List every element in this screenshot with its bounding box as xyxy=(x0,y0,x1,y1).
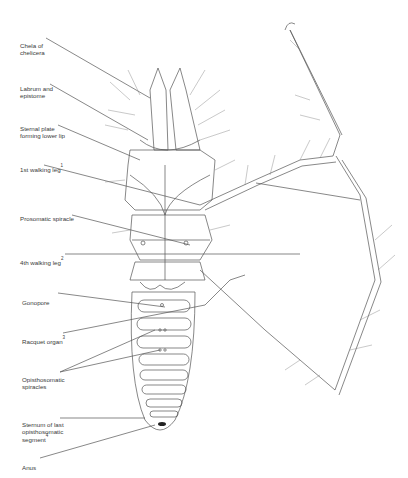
label-racquet-organ: Racquet organ3 xyxy=(22,330,65,345)
leader-chela xyxy=(46,38,150,98)
leader-sternal xyxy=(58,125,140,160)
label-labrum-and-epistome: Labrum and epistome xyxy=(20,77,53,100)
label-sternum-last-segment: Sternum of last opisthosomatic segment4 xyxy=(22,413,64,443)
arachnid-illustration xyxy=(0,0,408,478)
label-opisthosomatic-spiracles: Opisthosomatic spiracles xyxy=(22,368,65,391)
label-anus: Anus xyxy=(22,456,36,471)
label-gonopore: Gonopore xyxy=(22,291,50,306)
label-prosomatic-spiracle: Prosomatic spiracle xyxy=(20,207,74,222)
label-4th-walking-leg: 4th walking leg2 xyxy=(20,251,63,266)
label-1st-walking-leg: 1st walking leg1 xyxy=(20,158,63,173)
label-sternal-plate: Sternal plate forming lower lip xyxy=(20,117,65,140)
label-chela-of-chelicera: Chela of chelicera xyxy=(20,34,45,57)
